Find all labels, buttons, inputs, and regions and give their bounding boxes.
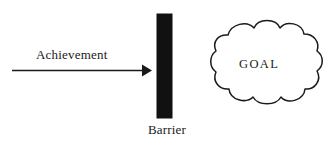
diagram-canvas: Achievement Barrier GOAL xyxy=(0,0,336,148)
barrier-label: Barrier xyxy=(140,122,194,138)
achievement-label: Achievement xyxy=(36,47,108,63)
achievement-arrow-head xyxy=(142,65,152,77)
goal-label: GOAL xyxy=(239,57,279,72)
barrier-bar xyxy=(157,14,172,118)
